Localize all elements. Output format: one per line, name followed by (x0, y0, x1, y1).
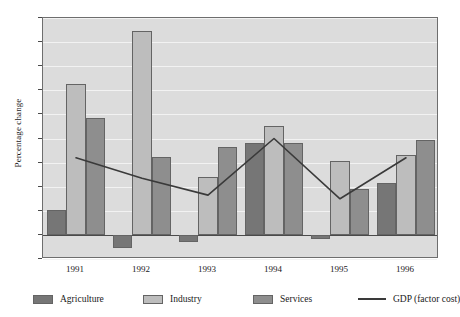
y-tick-mark (38, 258, 42, 259)
gridline (43, 259, 437, 260)
legend-label: GDP (factor cost) (393, 294, 460, 304)
x-tick-label: 1995 (311, 264, 367, 274)
gdp-line-path (76, 139, 406, 199)
legend-item-services[interactable]: Services (253, 294, 312, 304)
x-tick-label: 1992 (113, 264, 169, 274)
legend-color-swatch-agriculture (33, 295, 53, 304)
legend-item-gdp[interactable]: GDP (factor cost) (358, 294, 460, 304)
legend-color-swatch-industry (143, 295, 163, 304)
legend-line-swatch-gdp (358, 298, 386, 300)
y-axis-title: Percentage change (13, 53, 23, 213)
legend-color-swatch-services (253, 295, 273, 304)
legend-label: Services (280, 294, 312, 304)
legend-label: Industry (170, 294, 202, 304)
legend-item-agriculture[interactable]: Agriculture (33, 294, 104, 304)
x-tick-label: 1994 (245, 264, 301, 274)
x-tick-label: 1993 (179, 264, 235, 274)
chart-legend: AgricultureIndustryServicesGDP (factor c… (0, 292, 458, 310)
legend-item-industry[interactable]: Industry (143, 294, 202, 304)
x-tick-label: 1991 (47, 264, 103, 274)
plot-area (42, 17, 438, 258)
legend-label: Agriculture (60, 294, 104, 304)
gdp-line-series (43, 18, 439, 259)
x-tick-label: 1996 (377, 264, 433, 274)
